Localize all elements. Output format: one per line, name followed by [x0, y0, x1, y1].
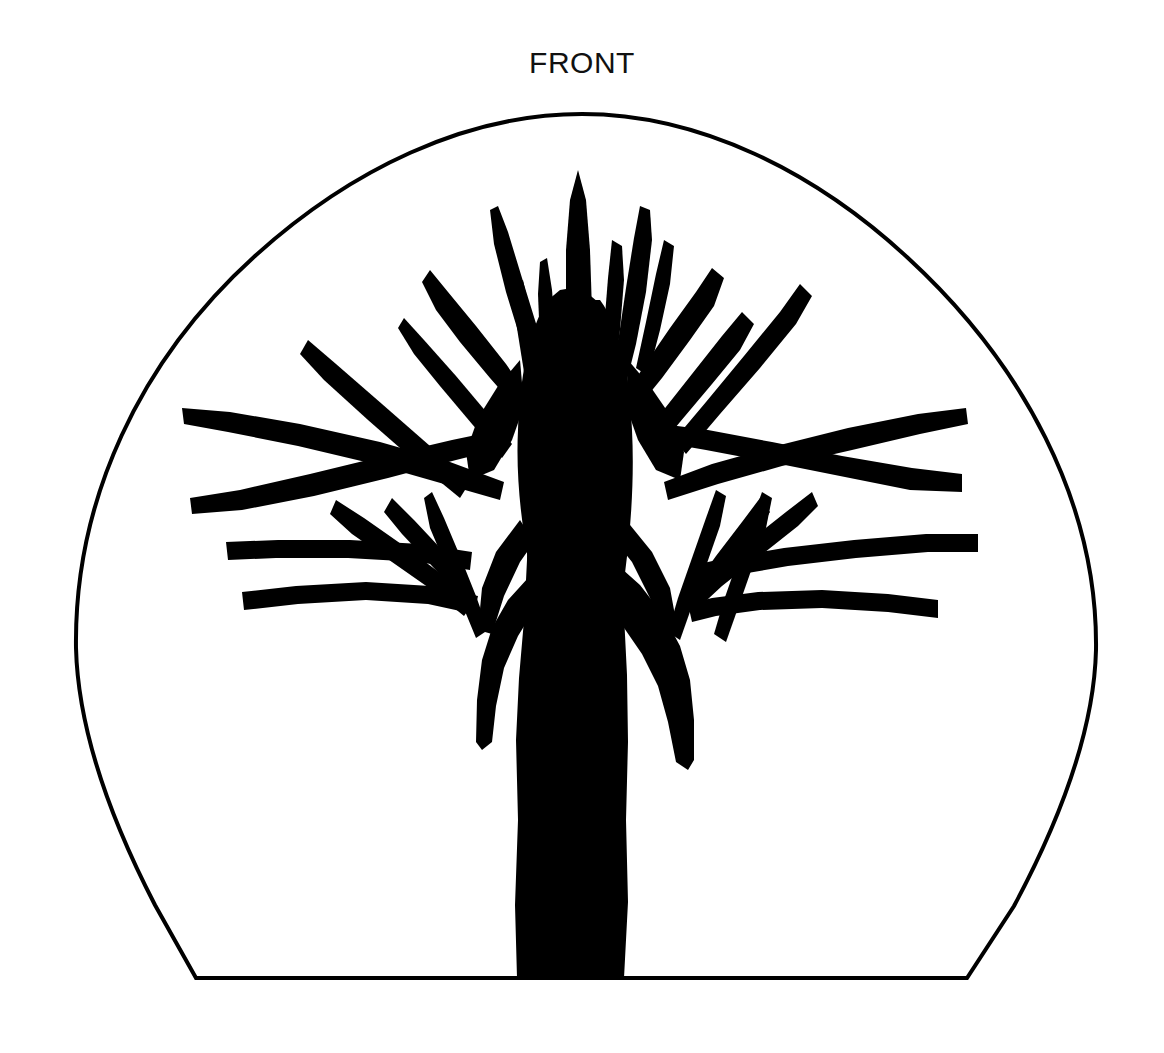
- tree-silhouette: [182, 170, 978, 978]
- crown-core: [517, 300, 632, 608]
- tree-figure: [0, 0, 1164, 1053]
- page-canvas: FRONT: [0, 0, 1164, 1053]
